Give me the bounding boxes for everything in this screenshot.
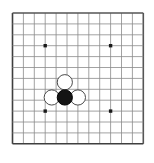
star-point (109, 109, 112, 112)
star-point (44, 109, 47, 112)
go-board-diagram (0, 0, 154, 163)
white-stone-top (57, 75, 72, 90)
star-point (109, 44, 112, 47)
go-board-canvas (0, 0, 154, 163)
star-point (44, 44, 47, 47)
black-stone-center (57, 90, 72, 105)
